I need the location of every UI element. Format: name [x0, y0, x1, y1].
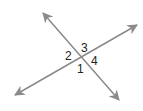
angle-label-2: 2: [65, 49, 72, 63]
angle-label-3: 3: [81, 41, 88, 55]
line-b: [15, 25, 137, 95]
intersecting-lines-diagram: 3 2 4 1: [0, 0, 143, 111]
angle-label-1: 1: [77, 62, 84, 76]
angle-label-4: 4: [91, 54, 98, 68]
